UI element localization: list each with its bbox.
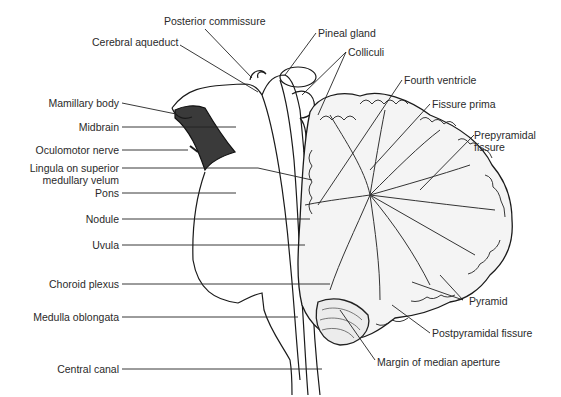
- label-choroid-plexus: Choroid plexus: [49, 278, 119, 290]
- label-mamillary-body: Mamillary body: [48, 97, 119, 109]
- label-cerebral-aqueduct: Cerebral aqueduct: [92, 36, 178, 48]
- label-pineal-gland: Pineal gland: [318, 27, 376, 39]
- label-pons: Pons: [95, 187, 119, 199]
- label-central-canal: Central canal: [57, 363, 119, 375]
- label-medulla-oblongata: Medulla oblongata: [33, 311, 119, 323]
- label-prepyramidal-line1: Prepyramidal: [474, 129, 536, 141]
- label-posterior-commissure: Posterior commissure: [164, 15, 266, 27]
- label-pyramid: Pyramid: [469, 295, 508, 307]
- label-fissure-prima: Fissure prima: [432, 98, 496, 110]
- label-fourth-ventricle: Fourth ventricle: [404, 74, 476, 86]
- label-colliculi: Colliculi: [348, 46, 384, 58]
- label-prepyramidal-line2: fissure: [474, 141, 505, 153]
- label-nodule: Nodule: [86, 213, 119, 225]
- label-postpyramidal-fissure: Postpyramidal fissure: [432, 327, 532, 339]
- label-uvula: Uvula: [92, 239, 119, 251]
- label-lingula-line1: Lingula on superior: [30, 162, 119, 174]
- label-oculomotor-nerve: Oculomotor nerve: [36, 144, 119, 156]
- label-lingula-line2: medullary velum: [43, 174, 119, 186]
- label-margin-median-aperture: Margin of median aperture: [377, 356, 500, 368]
- label-midbrain: Midbrain: [79, 121, 119, 133]
